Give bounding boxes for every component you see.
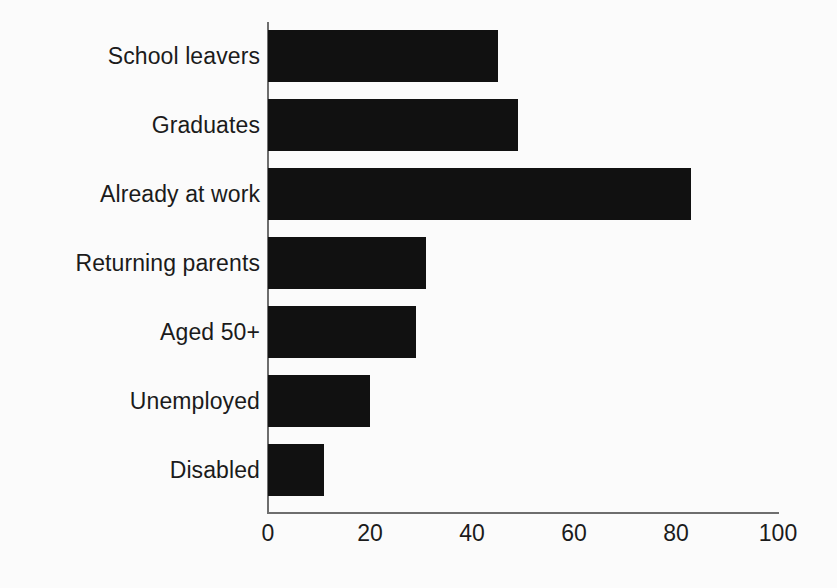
value-tick-label: 40 [459, 520, 485, 547]
category-label-row: Already at work [8, 160, 260, 229]
bar [268, 306, 416, 358]
category-label: School leavers [10, 30, 260, 82]
category-label: Graduates [10, 99, 260, 151]
value-tick-label: 80 [663, 520, 689, 547]
category-label: Aged 50+ [10, 306, 260, 358]
bar [268, 444, 324, 496]
category-label-row: Disabled [8, 436, 260, 505]
category-label-row: Aged 50+ [8, 298, 260, 367]
value-tick-label: 100 [759, 520, 797, 547]
plot-area [268, 22, 778, 513]
bar [268, 99, 518, 151]
bar-row [268, 436, 778, 505]
bar [268, 237, 426, 289]
bar-row [268, 160, 778, 229]
value-tick-label: 20 [357, 520, 383, 547]
bar-row [268, 367, 778, 436]
value-tick-label: 0 [262, 520, 275, 547]
bar-row [268, 229, 778, 298]
bar-chart: School leaversGraduatesAlready at workRe… [0, 0, 837, 588]
category-label: Unemployed [10, 375, 260, 427]
category-label-row: Returning parents [8, 229, 260, 298]
category-label: Disabled [10, 444, 260, 496]
category-label: Already at work [10, 168, 260, 220]
category-axis-labels: School leaversGraduatesAlready at workRe… [8, 22, 260, 513]
bar-row [268, 298, 778, 367]
value-axis-tick-labels: 020406080100 [268, 520, 778, 560]
bar [268, 30, 498, 82]
category-label: Returning parents [10, 237, 260, 289]
category-label-row: School leavers [8, 22, 260, 91]
category-label-row: Unemployed [8, 367, 260, 436]
value-tick-label: 60 [561, 520, 587, 547]
category-label-row: Graduates [8, 91, 260, 160]
bar-row [268, 91, 778, 160]
bar-row [268, 22, 778, 91]
bar [268, 168, 691, 220]
bar [268, 375, 370, 427]
